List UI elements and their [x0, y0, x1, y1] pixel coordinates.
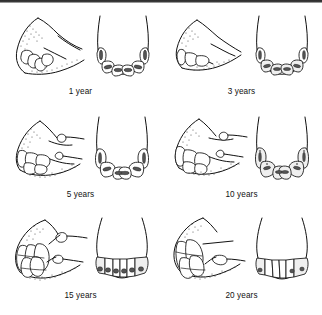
occlusal-arcade-3-years: [256, 16, 308, 75]
lateral-profile-15-years: [16, 220, 87, 281]
age-label-20-years: 20 years: [161, 291, 322, 301]
illustration-20-years: [161, 212, 322, 292]
panel-15-years: 15 years: [0, 212, 161, 312]
lateral-profile-3-years: [176, 20, 241, 71]
lateral-profile-5-years: [16, 121, 84, 178]
age-label-1-year: 1 year: [0, 87, 161, 97]
illustration-10-years: [161, 111, 322, 191]
panel-20-years-views: [161, 212, 322, 292]
panel-1-year: 1 year: [0, 8, 161, 108]
occlusal-arcade-1-year: [97, 16, 149, 76]
panel-15-years-views: [0, 212, 161, 292]
panel-20-years: 20 years: [161, 212, 322, 312]
panel-3-years: 3 years: [161, 8, 322, 108]
panel-grid: 1 year: [0, 4, 322, 315]
top-border-rule: [0, 0, 322, 3]
age-label-3-years: 3 years: [161, 87, 322, 97]
age-label-5-years: 5 years: [0, 190, 161, 200]
occlusal-arcade-15-years: [96, 218, 148, 278]
age-label-15-years: 15 years: [0, 291, 161, 301]
illustration-3-years: [161, 8, 322, 88]
panel-5-years-views: [0, 111, 161, 191]
age-label-10-years: 10 years: [161, 190, 322, 200]
panel-10-years-views: [161, 111, 322, 191]
lateral-profile-20-years: [174, 218, 245, 280]
occlusal-arcade-5-years: [95, 117, 148, 179]
panel-1-year-views: [0, 8, 161, 88]
equine-dental-aging-figure: 1 year: [0, 0, 322, 315]
occlusal-arcade-20-years: [256, 218, 308, 279]
panel-5-years: 5 years: [0, 111, 161, 211]
lateral-profile-1-year: [16, 18, 84, 74]
panel-10-years: 10 years: [161, 111, 322, 211]
illustration-15-years: [0, 212, 161, 292]
lateral-profile-10-years: [175, 119, 247, 176]
illustration-1-year: [0, 8, 161, 88]
illustration-5-years: [0, 111, 161, 191]
panel-3-years-views: [161, 8, 322, 88]
occlusal-arcade-10-years: [255, 117, 308, 179]
